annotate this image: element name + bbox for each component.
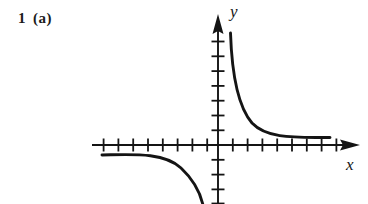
curve-branch-quadrant-3 xyxy=(102,155,203,204)
curve-branch-quadrant-1 xyxy=(231,33,331,138)
x-axis-arrowhead xyxy=(340,140,360,151)
figure-page: 1(a) xyxy=(0,0,368,204)
hyperbola-graph xyxy=(0,0,368,204)
x-axis xyxy=(92,139,360,152)
y-axis xyxy=(212,14,225,204)
x-axis-label: x xyxy=(346,155,354,175)
y-axis-arrowhead xyxy=(213,14,224,34)
y-axis-label: y xyxy=(230,2,238,22)
